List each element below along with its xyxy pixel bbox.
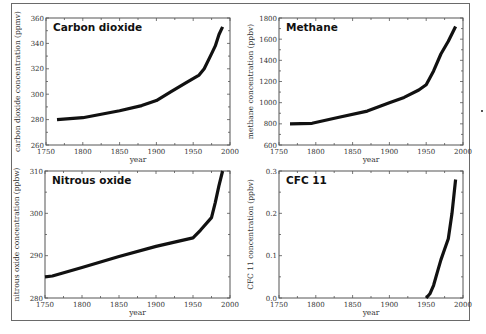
data-line <box>57 27 223 120</box>
y-tick-label: 320 <box>31 65 44 73</box>
methane-chart: 1750180018501900195020006008001000120014… <box>246 15 472 165</box>
y-tick-label: 290 <box>30 252 43 260</box>
x-tick-label: 1850 <box>111 148 129 156</box>
y-axis-label: CFC 11 concentration (ppbv) <box>246 179 255 290</box>
x-tick-label: 1900 <box>380 148 398 156</box>
y-tick-label: 800 <box>264 120 277 128</box>
y-tick-label: 1400 <box>259 57 277 65</box>
x-axis-label: year <box>362 308 380 317</box>
y-tick-label: 310 <box>30 168 43 176</box>
data-line <box>45 171 223 277</box>
panel-title: Nitrous oxide <box>52 174 131 186</box>
x-tick-label: 2000 <box>454 148 472 156</box>
plot-area <box>279 18 463 145</box>
x-tick-label: 1900 <box>380 301 398 309</box>
plot-area <box>46 18 230 145</box>
panel-title: CFC 11 <box>286 174 327 186</box>
x-tick-label: 1950 <box>417 301 435 309</box>
y-axis-label: methane concentration (ppbv) <box>246 24 255 139</box>
y-axis-label: nitrous oxide concentration (ppbw) <box>12 167 21 301</box>
y-axis-label: carbon dioxide concentration (ppmv) <box>13 11 22 152</box>
y-tick-label: 0.0 <box>266 295 277 303</box>
y-tick-label: 280 <box>30 295 43 303</box>
y-tick-label: 300 <box>31 91 44 99</box>
x-tick-label: 1800 <box>74 148 92 156</box>
y-tick-label: 1200 <box>259 78 277 86</box>
x-axis-label: year <box>128 308 146 317</box>
y-tick-label: 1800 <box>259 15 277 23</box>
climate-gas-charts: 1750180018501900195020002602803003203403… <box>0 0 486 334</box>
x-axis-label: year <box>129 155 147 164</box>
y-tick-label: 340 <box>31 40 44 48</box>
plot-area <box>45 171 230 298</box>
nitrous-oxide-chart: 175018001850190019502000280290300310year… <box>12 167 239 317</box>
x-axis-label: year <box>362 155 380 164</box>
y-tick-label: 300 <box>30 210 43 218</box>
panel-title: Methane <box>286 21 338 33</box>
y-tick-label: 0.3 <box>266 168 277 176</box>
y-tick-label: 1600 <box>259 36 277 44</box>
x-tick-label: 2000 <box>221 148 239 156</box>
x-tick-label: 1900 <box>147 148 165 156</box>
data-line <box>426 180 455 299</box>
x-tick-label: 1850 <box>344 148 362 156</box>
x-tick-label: 2000 <box>454 301 472 309</box>
x-tick-label: 2000 <box>221 301 239 309</box>
x-tick-label: 1800 <box>73 301 91 309</box>
y-tick-label: 1000 <box>259 99 277 107</box>
y-tick-label: 0.1 <box>266 252 277 260</box>
x-tick-label: 1800 <box>307 148 325 156</box>
data-line <box>290 27 456 124</box>
y-tick-label: 0.2 <box>266 210 277 218</box>
x-tick-label: 1950 <box>184 301 202 309</box>
carbon-dioxide-chart: 1750180018501900195020002602803003203403… <box>13 11 239 164</box>
x-tick-label: 1900 <box>147 301 165 309</box>
y-tick-label: 600 <box>264 142 277 150</box>
y-tick-label: 260 <box>31 142 44 150</box>
y-tick-label: 280 <box>31 116 44 124</box>
x-tick-label: 1950 <box>184 148 202 156</box>
x-tick-label: 1850 <box>110 301 128 309</box>
x-tick-label: 1800 <box>307 301 325 309</box>
y-tick-label: 360 <box>31 15 44 23</box>
panel-title: Carbon dioxide <box>53 21 142 33</box>
cfc-11-chart: 1750180018501900195020000.00.10.20.3year… <box>246 168 472 318</box>
x-tick-label: 1950 <box>417 148 435 156</box>
x-tick-label: 1850 <box>344 301 362 309</box>
